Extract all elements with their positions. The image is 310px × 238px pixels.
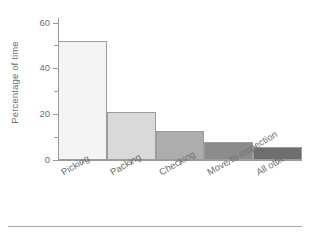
y-tick-label: 40: [39, 62, 50, 73]
y-tick-label: 0: [45, 154, 50, 165]
y-tick-label: 60: [39, 17, 50, 28]
y-axis-title-text: Percentage of time: [9, 41, 20, 123]
y-tick-major: 60: [53, 23, 58, 24]
bar-picking[interactable]: [58, 41, 107, 160]
bar-packing[interactable]: [107, 112, 156, 160]
y-tick-label: 20: [39, 108, 50, 119]
y-tick-major: 0: [53, 160, 58, 161]
bar-chart-figure: Percentage of time 0204060 PickingPackin…: [0, 0, 310, 238]
y-axis-title: Percentage of time: [2, 0, 26, 165]
footer-divider: [8, 226, 302, 227]
